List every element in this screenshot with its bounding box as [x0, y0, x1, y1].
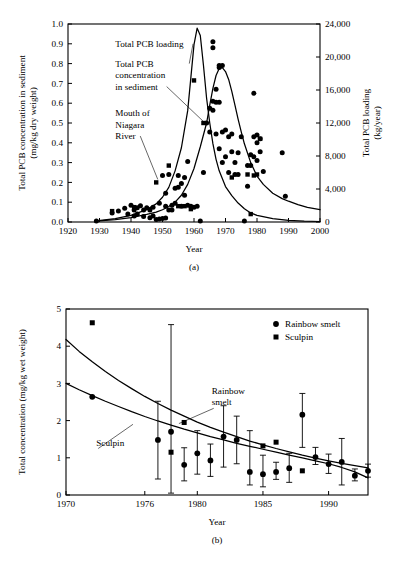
panel-b-annotation-text: smelt [212, 397, 232, 407]
panel-a-circle-marker [135, 212, 140, 217]
panel-a-y-ticklabel: 0.8 [52, 59, 64, 69]
panel-a-circle-marker [258, 149, 263, 154]
panel-b-x-ticklabel: 1980 [188, 499, 207, 509]
panel-a-svg: 1920193019401950196019701980199020000.00… [0, 0, 402, 285]
panel-a-y-ticklabel: 0.6 [52, 98, 64, 108]
panel-a-circle-marker [169, 208, 174, 213]
panel-a-circle-marker [94, 219, 99, 224]
panel-b-y-ticklabel: 4 [56, 341, 61, 351]
panel-a-circle-marker [251, 154, 256, 159]
panel-b-circle-marker [260, 471, 266, 477]
panel-b-circle-marker [313, 454, 319, 460]
panel-b-fish-concentration: 19701976198019851990012345Total concentr… [0, 285, 402, 570]
panel-a-x-ticklabel: 1920 [59, 226, 78, 236]
panel-a-circle-marker [163, 204, 168, 209]
panel-a-y2-ticklabel: 12,000 [325, 118, 351, 128]
panel-a-x-axis-title: Year [186, 244, 203, 254]
panel-b-circle-marker [89, 394, 95, 400]
panel-a-circle-marker [220, 160, 225, 165]
panel-a-circle-marker [210, 108, 215, 113]
panel-a-x-ticklabel: 1940 [122, 226, 141, 236]
panel-a-annotation-text: Mouth of [115, 108, 150, 118]
panel-b-x-axis-title: Year [209, 517, 226, 527]
panel-a-circle-marker [226, 170, 231, 175]
panel-b-x-ticklabel: 1970 [57, 499, 76, 509]
panel-a-circle-marker [116, 209, 121, 214]
panel-a-circle-marker [166, 172, 171, 177]
panel-b-circle-marker [194, 450, 200, 456]
panel-a-circle-marker [248, 163, 253, 168]
panel-b-x-ticklabel: 1985 [254, 499, 273, 509]
panel-a-circle-marker [283, 194, 288, 199]
panel-a-circle-marker [125, 212, 130, 217]
panel-a-square-marker [154, 180, 158, 184]
panel-b-circle-marker [365, 468, 371, 474]
panel-a-annotation-text: River [115, 131, 135, 141]
panel-a-circle-marker [229, 149, 234, 154]
panel-a-square-marker [249, 212, 253, 216]
panel-b-annotation-text: Rainbow [212, 386, 246, 396]
panel-b-y-ticklabel: 0 [56, 490, 61, 500]
panel-a-circle-marker [176, 173, 181, 178]
panel-a-circle-marker [242, 219, 247, 224]
panel-a-plot-frame [68, 24, 320, 222]
panel-b-legend-square-icon [274, 335, 279, 340]
panel-a-circle-marker [210, 39, 215, 44]
panel-b-legend-label: Rainbow smelt [285, 319, 341, 329]
panel-b-square-marker [260, 443, 265, 448]
panel-a-square-marker [176, 204, 180, 208]
panel-a-square-marker [132, 205, 136, 209]
panel-a-circle-marker [239, 134, 244, 139]
panel-b-circle-marker [326, 461, 332, 467]
panel-a-label: (a) [189, 262, 199, 272]
panel-b-circle-marker [339, 459, 345, 465]
panel-a-circle-marker [236, 172, 241, 177]
panel-a-circle-marker [182, 175, 187, 180]
panel-a-y-ticklabel: 0.3 [52, 158, 64, 168]
panel-b-x-ticklabel: 1990 [319, 499, 338, 509]
panel-b-circle-marker [168, 429, 174, 435]
panel-a-circle-marker [198, 219, 203, 224]
panel-a-y-axis-title: Total PCB concentration in sediment [17, 55, 27, 191]
panel-a-square-marker [230, 175, 234, 179]
panel-a-annotation-text: Total PCB [115, 59, 153, 69]
panel-a-x-ticklabel: 1960 [185, 226, 204, 236]
panel-a-circle-marker [163, 216, 168, 221]
panel-a-y2-axis-subtitle: (kg/year) [372, 106, 382, 140]
panel-a-circle-marker [151, 205, 156, 210]
panel-a-circle-marker [207, 129, 212, 134]
panel-a-annotation-text: Niagara [115, 120, 144, 130]
panel-a-y2-ticklabel: 0 [325, 217, 330, 227]
panel-a-y-ticklabel: 1.0 [52, 19, 64, 29]
panel-a-y2-axis-title: Total PCB loading [361, 88, 371, 157]
panel-b-circle-marker [286, 465, 292, 471]
panel-b-square-marker [274, 440, 279, 445]
panel-b-y-ticklabel: 3 [56, 379, 61, 389]
panel-a-circle-marker [138, 203, 143, 208]
panel-a-x-ticklabel: 1990 [279, 226, 298, 236]
panel-b-annotation-text: Sculpin [96, 438, 124, 448]
panel-a-circle-marker [251, 91, 256, 96]
panel-a-square-marker [245, 172, 249, 176]
panel-b-circle-marker [208, 458, 214, 464]
panel-a-circle-marker [214, 87, 219, 92]
panel-b-legend-circle-icon [273, 321, 279, 327]
panel-a-y2-ticklabel: 16,000 [325, 85, 351, 95]
panel-b-square-marker [169, 450, 174, 455]
panel-b-square-marker [300, 468, 305, 473]
panel-b-y-axis-title: Total concentration (mg/kg wet weight) [17, 329, 27, 475]
panel-a-circle-marker [232, 160, 237, 165]
panel-a-annotation-text: in sediment [115, 82, 158, 92]
panel-a-circle-marker [201, 170, 206, 175]
panel-a-circle-marker [217, 100, 222, 105]
panel-a-y-ticklabel: 0.4 [52, 138, 64, 148]
panel-a-x-ticklabel: 1930 [90, 226, 109, 236]
panel-a-y2-ticklabel: 4,000 [325, 184, 346, 194]
panel-a-x-ticklabel: 1950 [153, 226, 172, 236]
panel-a-x-ticklabel: 1970 [216, 226, 235, 236]
figure-container: 1920193019401950196019701980199020000.00… [0, 0, 402, 570]
panel-a-circle-marker [229, 131, 234, 136]
panel-a-square-marker [167, 163, 171, 167]
panel-b-circle-marker [273, 469, 279, 475]
panel-a-circle-marker [245, 184, 250, 189]
